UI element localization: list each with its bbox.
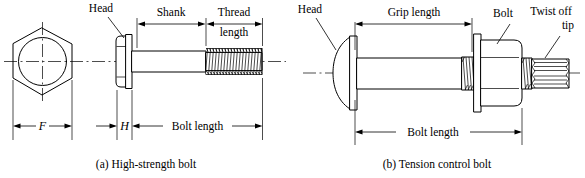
caption-panel-b: (b) Tension control bolt (383, 158, 492, 171)
thread-length-arrow-right (255, 21, 263, 26)
round-head-dome (333, 37, 350, 109)
bolt-length-arrow-left-b (355, 129, 363, 134)
shank-label: Shank (157, 6, 186, 18)
grip-length-arrow-left (355, 21, 363, 26)
twist-off-tip-callout: Twist off tip (530, 5, 574, 58)
bolt-length-arrow-right-a (255, 123, 263, 128)
head-body-outline (116, 36, 126, 87)
bolt-length-label-b: Bolt length (407, 126, 459, 139)
bolt-callout-b: Bolt (493, 7, 514, 44)
head-callout-a: Head (89, 2, 124, 38)
tc-nut-body (481, 40, 522, 106)
grip-length-arrow-right (465, 21, 473, 26)
head-label-b: Head (298, 3, 323, 15)
head-leader-line-a (108, 17, 124, 38)
bolt-types-figure: Shank Thread length Head (0, 0, 585, 178)
bolt-length-label-a: Bolt length (172, 120, 224, 133)
F-arrow-right (65, 123, 73, 128)
panel-b-tension-control-bolt: Grip length Head Bolt Twist off tip (298, 3, 580, 171)
caption-panel-a: (a) High-strength bolt (96, 158, 197, 171)
twist-off-tip (532, 59, 569, 88)
across-flats-dimension: F (13, 119, 72, 133)
grip-length-dimension: Grip length (355, 6, 472, 27)
thread-length-label-line1: Thread (218, 6, 251, 18)
bolt-label-b: Bolt (493, 7, 514, 19)
head-height-dimension: H (96, 119, 130, 133)
head-label-a: Head (89, 2, 114, 14)
tc-bolt-shank (357, 58, 462, 89)
tc-shank-outline (357, 58, 462, 89)
shank-arrow-right (198, 21, 206, 26)
bolt-shank (132, 51, 206, 72)
bolt-length-dimension-a: Bolt length (132, 120, 263, 133)
bolt-length-arrow-left-a (132, 123, 140, 128)
tc-nut (481, 40, 522, 106)
twist-off-label-line2: tip (562, 19, 574, 32)
shank-dimension: Shank (138, 6, 206, 27)
H-arrow-right (110, 123, 118, 128)
head-height-label: H (119, 119, 130, 133)
round-head-side-view (333, 36, 357, 110)
tc-washer (474, 34, 481, 112)
head-leader-line-b (316, 18, 336, 50)
tc-thread-section (462, 57, 474, 90)
head-washer-face (126, 35, 132, 89)
F-arrow-left (13, 123, 21, 128)
figure-svg: Shank Thread length Head (0, 0, 585, 178)
thread-length-arrow-left (207, 21, 215, 26)
panel-a-high-strength-bolt: Shank Thread length Head (4, 2, 286, 171)
twist-off-leader-line (545, 36, 560, 58)
bolt-threaded-portion (206, 49, 263, 75)
bolt-length-arrow-right-b (515, 129, 523, 134)
twist-off-label-line1: Twist off (530, 5, 572, 17)
bolt-head-side-view (116, 35, 132, 89)
shank-arrow-left (138, 21, 146, 26)
thread-length-label-line2: length (220, 26, 249, 39)
head-callout-b: Head (298, 3, 336, 50)
thread-length-dimension: Thread length (207, 6, 263, 39)
grip-length-label: Grip length (388, 6, 441, 19)
round-head-flange (350, 36, 357, 110)
tc-tip-thread (522, 58, 532, 89)
bolt-length-dimension-b: Bolt length (355, 126, 522, 139)
across-flats-label: F (38, 119, 47, 133)
shank-outline (132, 51, 206, 72)
